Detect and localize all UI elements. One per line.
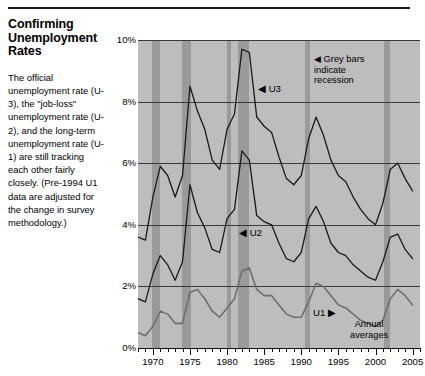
x-tick-minor [145,348,146,352]
x-tick-minor [398,348,399,352]
x-tick-minor [220,348,221,352]
x-tick-label: 1990 [291,357,312,367]
x-tick-minor [390,348,391,352]
line-u2 [138,151,413,302]
x-tick-minor [257,348,258,352]
series-label-u1: U1 ▶ [313,308,336,318]
x-tick-minor [160,348,161,352]
plot-area: ◀ U3 ◀ U2 U1 ▶ ◀ Grey bars indicate rece… [138,40,420,348]
x-tick-major [301,348,302,355]
x-tick-minor [346,348,347,352]
x-tick-minor [272,348,273,352]
x-tick-minor [361,348,362,352]
x-tick-minor [168,348,169,352]
x-tick-minor [286,348,287,352]
x-tick-label: 1985 [253,357,274,367]
line-u3 [138,49,413,240]
sidebar-text-column: Confirming Unemployment Rates The offici… [8,18,104,229]
page-title: Confirming Unemployment Rates [8,18,104,59]
x-tick-label: 1980 [216,357,237,367]
x-tick-minor [183,348,184,352]
x-tick-major [376,348,377,355]
x-tick-minor [242,348,243,352]
sidebar-description: The official unemployment rate (U-3), th… [8,71,104,229]
series-label-u3: ◀ U3 [258,84,281,94]
x-tick-label: 1995 [328,357,349,367]
x-tick-minor [353,348,354,352]
x-tick-major [264,348,265,355]
x-tick-minor [316,348,317,352]
x-tick-minor [235,348,236,352]
x-tick-minor [405,348,406,352]
x-tick-minor [331,348,332,352]
y-axis-labels: 0%2%4%6%8%10% [108,40,136,370]
x-tick-minor [212,348,213,352]
x-tick-minor [324,348,325,352]
x-tick-minor [205,348,206,352]
x-tick-major [227,348,228,355]
annual-averages-note: Annual averages [350,319,388,340]
top-divider [8,7,410,9]
x-tick-minor [138,348,139,352]
x-tick-minor [279,348,280,352]
x-tick-minor [309,348,310,352]
x-tick-label: 1970 [142,357,163,367]
series-label-u2: ◀ U2 [239,228,262,238]
x-tick-minor [294,348,295,352]
y-tick-label: 0% [122,343,136,353]
x-tick-minor [420,348,421,352]
y-tick-label: 10% [117,35,136,45]
x-tick-label: 2005 [402,357,423,367]
x-tick-label: 1975 [179,357,200,367]
y-tick-label: 8% [122,97,136,107]
y-tick-label: 4% [122,220,136,230]
chart-page: Confirming Unemployment Rates The offici… [0,0,425,376]
x-tick-minor [368,348,369,352]
x-tick-minor [383,348,384,352]
recession-legend-note: ◀ Grey bars indicate recession [314,54,364,86]
y-tick-label: 6% [122,158,136,168]
x-tick-major [190,348,191,355]
x-tick-major [153,348,154,355]
x-tick-major [413,348,414,355]
x-tick-minor [249,348,250,352]
chart-container: 0%2%4%6%8%10% ◀ U3 ◀ U2 U1 ▶ ◀ Grey bars… [108,40,420,370]
y-tick-label: 2% [122,281,136,291]
x-tick-minor [197,348,198,352]
x-tick-major [338,348,339,355]
x-tick-label: 2000 [365,357,386,367]
x-tick-minor [175,348,176,352]
